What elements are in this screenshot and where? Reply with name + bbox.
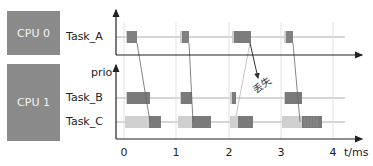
lanes bbox=[116, 37, 345, 122]
time-axis-label: t/ms bbox=[344, 146, 368, 159]
timing-diagram: 丢失 bbox=[0, 0, 373, 166]
tick-4: 4 bbox=[330, 146, 337, 159]
tick-2: 2 bbox=[226, 146, 233, 159]
tick-3: 3 bbox=[278, 146, 285, 159]
lost-label: 丢失 bbox=[250, 74, 273, 95]
tick-0: 0 bbox=[121, 146, 128, 159]
lost-arrow bbox=[250, 43, 258, 78]
lost-dependency-line bbox=[236, 43, 250, 116]
tick-1: 1 bbox=[173, 146, 180, 159]
